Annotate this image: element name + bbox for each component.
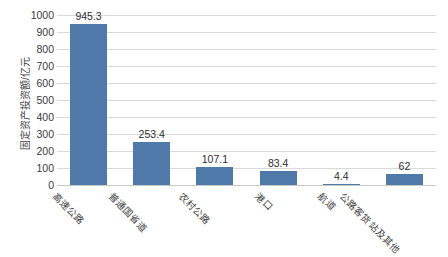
bar[interactable] <box>196 167 233 185</box>
y-axis-tick-label: 1000 <box>18 10 54 20</box>
bar-slot: 253.4 <box>120 15 183 185</box>
bar-value-label: 62 <box>399 160 411 172</box>
y-axis-tick-label: 200 <box>18 146 54 156</box>
y-axis-tick-labels: 10009008007006005004003002001000 <box>18 10 54 185</box>
bar[interactable] <box>70 24 107 185</box>
y-axis-tick-label: 500 <box>18 95 54 105</box>
x-axis-category-label: 普通国省道 <box>105 189 151 235</box>
x-axis-category-label: 高速公路 <box>49 189 88 228</box>
bar[interactable] <box>260 171 297 185</box>
x-axis-category-label: 航道 <box>315 189 339 213</box>
y-axis-tick-label: 900 <box>18 27 54 37</box>
bar-value-label: 83.4 <box>268 157 288 169</box>
plot-area: 945.3253.4107.183.44.462 <box>57 15 436 185</box>
x-axis-category-label: 公路客货站及其他 <box>337 189 405 257</box>
y-axis-tick-label: 100 <box>18 163 54 173</box>
bar-slot: 4.4 <box>310 15 373 185</box>
x-axis-category-label: 港口 <box>252 189 276 213</box>
bar[interactable] <box>386 174 423 185</box>
y-axis-tick-label: 0 <box>18 180 54 190</box>
y-axis-tick-label: 300 <box>18 129 54 139</box>
bar-slot: 945.3 <box>57 15 120 185</box>
bar[interactable] <box>133 142 170 185</box>
y-axis-tick-label: 400 <box>18 112 54 122</box>
axis-baseline <box>57 185 436 186</box>
bar-chart: 固定资产投资额/亿元 10009008007006005004003002001… <box>0 0 448 257</box>
bar-slot: 83.4 <box>247 15 310 185</box>
bar[interactable] <box>323 184 360 185</box>
x-axis-category-labels: 高速公路普通国省道农村公路港口航道公路客货站及其他 <box>57 187 436 257</box>
bar-slot: 107.1 <box>183 15 246 185</box>
y-axis-tick-label: 800 <box>18 44 54 54</box>
bar-value-label: 945.3 <box>75 10 101 22</box>
bar-value-label: 4.4 <box>334 170 349 182</box>
bar-slot: 62 <box>373 15 436 185</box>
bar-series: 945.3253.4107.183.44.462 <box>57 15 436 185</box>
bar-value-label: 107.1 <box>202 153 228 165</box>
x-axis-category-label: 农村公路 <box>175 189 214 228</box>
y-axis-tick-label: 600 <box>18 78 54 88</box>
y-axis-tick-label: 700 <box>18 61 54 71</box>
bar-value-label: 253.4 <box>139 128 165 140</box>
